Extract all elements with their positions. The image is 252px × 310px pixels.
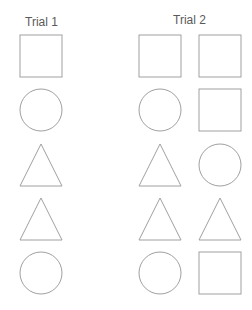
circle-shape-trial2-col1-row5 — [139, 252, 181, 294]
shape-grid — [0, 0, 252, 310]
circle-shape-trial2-col2-row3 — [199, 144, 241, 186]
square-shape-trial2-col2-row2 — [199, 89, 241, 131]
triangle-shape-trial2-col1-row4 — [139, 198, 181, 240]
square-shape-trial1-col1-row1 — [20, 35, 62, 77]
triangle-shape-trial1-col1-row4 — [20, 198, 62, 240]
triangle-shape-trial1-col1-row3 — [20, 144, 62, 186]
square-shape-trial2-col2-row5 — [199, 252, 241, 294]
triangle-shape-trial2-col2-row4 — [199, 198, 241, 240]
triangle-shape-trial2-col1-row3 — [139, 144, 181, 186]
circle-shape-trial2-col1-row2 — [139, 89, 181, 131]
square-shape-trial2-col2-row1 — [199, 35, 241, 77]
square-shape-trial2-col1-row1 — [139, 35, 181, 77]
circle-shape-trial1-col1-row5 — [20, 252, 62, 294]
circle-shape-trial1-col1-row2 — [20, 89, 62, 131]
